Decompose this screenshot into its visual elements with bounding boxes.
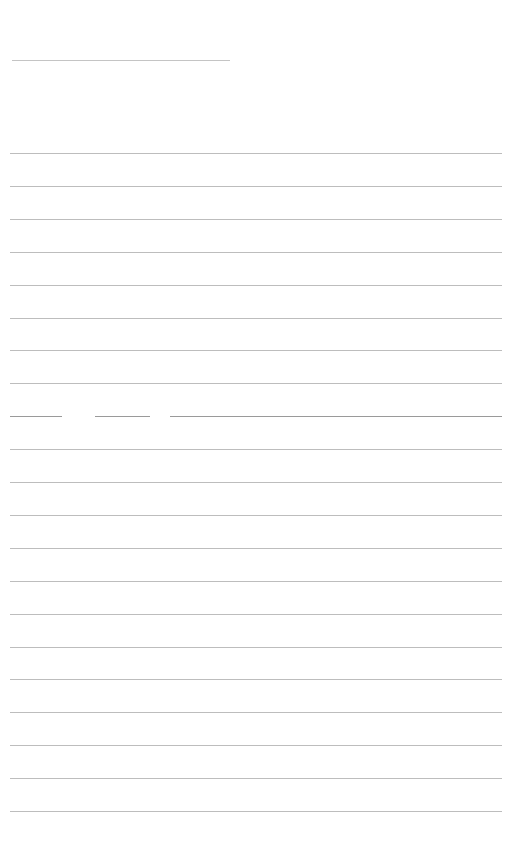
- title-line: [12, 60, 230, 61]
- ruled-line: [10, 153, 502, 154]
- ruled-line: [10, 285, 502, 286]
- ruled-line: [10, 581, 502, 582]
- ruled-line: [10, 712, 502, 713]
- ruled-line: [10, 515, 502, 516]
- ruled-line-segment: [170, 416, 502, 417]
- ruled-line: [10, 811, 502, 812]
- ruled-line-segment: [95, 416, 150, 417]
- ruled-line: [10, 219, 502, 220]
- ruled-line: [10, 482, 502, 483]
- ruled-line: [10, 679, 502, 680]
- ruled-line: [10, 383, 502, 384]
- ruled-line: [10, 548, 502, 549]
- ruled-line: [10, 350, 502, 351]
- ruled-line: [10, 778, 502, 779]
- ruled-line: [10, 252, 502, 253]
- ruled-line: [10, 186, 502, 187]
- ruled-line: [10, 614, 502, 615]
- ruled-line: [10, 449, 502, 450]
- ruled-line-segment: [10, 416, 62, 417]
- ruled-line: [10, 745, 502, 746]
- ruled-line: [10, 318, 502, 319]
- ruled-line: [10, 647, 502, 648]
